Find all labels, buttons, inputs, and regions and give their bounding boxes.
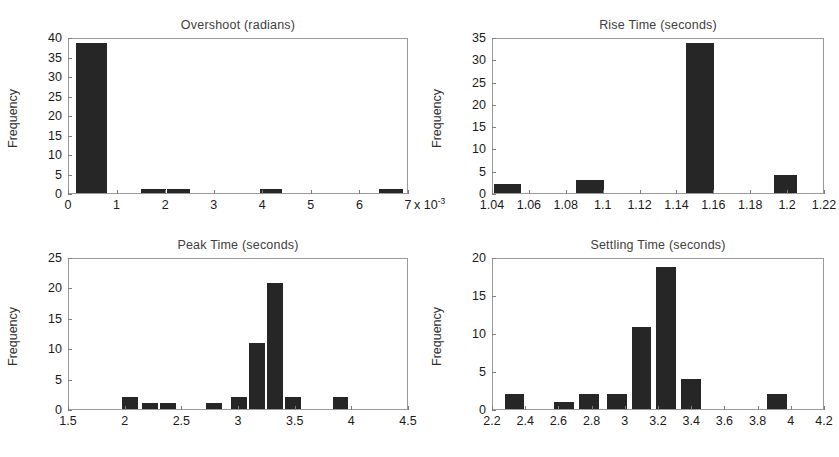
x-axis-exponent-label: x 10-3 — [414, 196, 445, 212]
y-tick-label: 0 — [22, 187, 62, 201]
y-tick-mark — [492, 410, 496, 411]
x-tick-mark — [117, 190, 118, 194]
chart-title-overshoot: Overshoot (radians) — [68, 18, 408, 32]
histogram-bar — [686, 43, 714, 193]
histogram-bar — [141, 189, 165, 193]
x-tick-mark — [791, 406, 792, 410]
x-tick-mark — [658, 406, 659, 410]
y-tick-mark — [68, 38, 72, 39]
x-tick-label: 2.6 — [550, 414, 567, 428]
y-tick-label: 5 — [22, 373, 62, 387]
y-tick-mark — [68, 349, 72, 350]
y-tick-label: 35 — [446, 31, 486, 45]
y-tick-mark — [68, 58, 72, 59]
y-tick-mark — [68, 319, 72, 320]
y-tick-label: 15 — [446, 120, 486, 134]
y-tick-mark — [492, 334, 496, 335]
y-tick-label: 10 — [22, 148, 62, 162]
x-tick-label: 6 — [356, 198, 363, 212]
plot-area-overshoot — [68, 38, 408, 194]
x-tick-label: 3.4 — [682, 414, 699, 428]
y-tick-mark — [492, 105, 496, 106]
histogram-bar — [494, 184, 522, 193]
x-tick-mark — [68, 406, 69, 410]
x-tick-mark — [262, 190, 263, 194]
histogram-bar — [576, 180, 604, 193]
x-tick-label: 1.22 — [812, 198, 836, 212]
bars-layer-rise-time — [493, 39, 823, 193]
y-tick-label: 20 — [22, 281, 62, 295]
x-tick-mark — [165, 190, 166, 194]
y-tick-mark — [68, 77, 72, 78]
chart-title-peak-time: Peak Time (seconds) — [68, 238, 408, 252]
x-tick-mark — [492, 190, 493, 194]
y-tick-label: 20 — [446, 251, 486, 265]
y-tick-mark — [68, 288, 72, 289]
y-tick-mark — [492, 60, 496, 61]
histogram-bar — [122, 397, 138, 409]
plot-area-peak-time — [68, 258, 408, 410]
exponent-base: x 10 — [414, 198, 438, 212]
histogram-bar — [160, 403, 176, 409]
x-tick-mark — [295, 406, 296, 410]
bars-layer-overshoot — [69, 39, 407, 193]
y-tick-label: 0 — [22, 403, 62, 417]
x-tick-mark — [68, 190, 69, 194]
y-tick-label: 5 — [22, 168, 62, 182]
x-tick-label: 1.12 — [627, 198, 651, 212]
y-tick-mark — [68, 410, 72, 411]
x-tick-mark — [625, 406, 626, 410]
x-tick-mark — [529, 190, 530, 194]
y-tick-mark — [68, 258, 72, 259]
x-tick-mark — [408, 190, 409, 194]
y-tick-label: 10 — [22, 342, 62, 356]
y-tick-label: 25 — [22, 90, 62, 104]
chart-title-rise-time: Rise Time (seconds) — [492, 18, 824, 32]
histogram-bar — [267, 283, 283, 409]
x-tick-label: 2.2 — [483, 414, 500, 428]
y-tick-label: 5 — [446, 165, 486, 179]
chart-panel-peak-time: Peak Time (seconds)05101520251.522.533.5… — [0, 0, 839, 457]
y-tick-label: 20 — [446, 98, 486, 112]
histogram-bar — [285, 397, 301, 409]
x-tick-mark — [676, 190, 677, 194]
x-tick-label: 1.16 — [701, 198, 725, 212]
x-tick-label: 1.18 — [738, 198, 762, 212]
x-tick-label: 1 — [113, 198, 120, 212]
histogram-bar — [231, 397, 247, 409]
x-tick-mark — [640, 190, 641, 194]
x-tick-mark — [592, 406, 593, 410]
plot-area-settling-time — [492, 258, 824, 410]
x-tick-label: 4 — [787, 414, 794, 428]
chart-panel-rise-time: Rise Time (seconds)051015202530351.041.0… — [0, 0, 839, 457]
y-tick-label: 20 — [22, 109, 62, 123]
x-tick-label: 2.4 — [516, 414, 533, 428]
x-tick-mark — [758, 406, 759, 410]
chart-panel-overshoot: Overshoot (radians)051015202530354001234… — [0, 0, 839, 457]
y-axis-label-settling-time: Frequency — [430, 307, 444, 366]
histogram-bar — [76, 43, 106, 193]
y-tick-mark — [492, 83, 496, 84]
y-tick-mark — [492, 194, 496, 195]
y-tick-mark — [68, 116, 72, 117]
y-tick-label: 25 — [22, 251, 62, 265]
x-tick-label: 4.2 — [815, 414, 832, 428]
x-tick-label: 3 — [621, 414, 628, 428]
x-tick-label: 1.2 — [778, 198, 795, 212]
x-tick-label: 2.8 — [583, 414, 600, 428]
y-axis-label-rise-time: Frequency — [430, 89, 444, 148]
histogram-bar — [656, 267, 676, 410]
x-tick-mark — [311, 190, 312, 194]
x-tick-mark — [713, 190, 714, 194]
y-axis-label-overshoot: Frequency — [6, 89, 20, 148]
y-tick-mark — [492, 372, 496, 373]
y-tick-label: 10 — [446, 142, 486, 156]
exponent-power: -3 — [438, 196, 446, 206]
x-tick-mark — [238, 406, 239, 410]
x-tick-mark — [525, 406, 526, 410]
x-tick-label: 3 — [235, 414, 242, 428]
y-tick-label: 25 — [446, 76, 486, 90]
y-tick-label: 5 — [446, 365, 486, 379]
histogram-bar — [249, 343, 265, 409]
x-tick-mark — [181, 406, 182, 410]
